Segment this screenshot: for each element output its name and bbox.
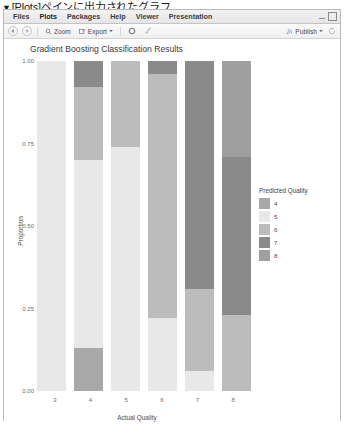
- publish-area: Publish: [284, 24, 336, 38]
- legend-label: 8: [274, 252, 277, 259]
- legend-item: 7: [259, 237, 337, 248]
- bar-column: [148, 61, 177, 391]
- bar-segment: [148, 74, 177, 318]
- bar-column: [185, 61, 214, 391]
- export-button[interactable]: Export: [77, 25, 115, 37]
- chart-legend: Predicted Quality 45678: [259, 187, 337, 263]
- x-axis-label: Actual Quality: [4, 414, 340, 421]
- pane-tabstrip: Files Plots Packages Help Viewer Present…: [4, 10, 340, 24]
- publish-label: Publish: [295, 28, 317, 35]
- bar-segment: [222, 315, 251, 391]
- bar-segment: [185, 371, 214, 391]
- tab-files[interactable]: Files: [8, 10, 34, 23]
- plot-panel: 0.000.250.500.751.00 345678: [37, 61, 251, 391]
- plots-toolbar: Zoom Export: [4, 24, 340, 39]
- legend-item: 4: [259, 198, 337, 209]
- legend-title: Predicted Quality: [259, 187, 337, 194]
- legend-swatch: [259, 198, 270, 209]
- legend-label: 5: [274, 213, 277, 220]
- remove-plot-icon: [128, 27, 136, 35]
- y-tick-label: 0.75: [22, 141, 34, 147]
- bar-segment: [185, 61, 214, 289]
- bar-column: [111, 61, 140, 391]
- tab-help[interactable]: Help: [105, 10, 131, 23]
- legend-item: 5: [259, 211, 337, 222]
- bar-column: [222, 61, 251, 391]
- legend-item: 8: [259, 250, 337, 261]
- export-label: Export: [88, 28, 107, 35]
- y-tick-label: 0.25: [22, 306, 34, 312]
- publish-button[interactable]: Publish: [284, 25, 325, 37]
- maximize-icon[interactable]: [328, 12, 337, 21]
- window-controls: [319, 12, 337, 21]
- zoom-button[interactable]: Zoom: [43, 25, 73, 37]
- bar-segment: [222, 157, 251, 315]
- bar-column: [37, 61, 66, 391]
- legend-swatch: [259, 237, 270, 248]
- refresh-icon[interactable]: [328, 27, 336, 35]
- bar-segment: [148, 61, 177, 74]
- remove-plot-button[interactable]: [126, 25, 138, 37]
- toolbar-divider: [37, 27, 38, 36]
- clear-plots-button[interactable]: [142, 25, 154, 37]
- chevron-down-icon[interactable]: [109, 30, 113, 32]
- stacked-bars: [37, 61, 251, 391]
- x-tick-label: 6: [160, 397, 163, 403]
- y-axis-label: Proportion: [17, 216, 24, 246]
- export-icon: [79, 28, 86, 35]
- tab-plots[interactable]: Plots: [34, 10, 62, 23]
- x-tick-label: 3: [53, 397, 56, 403]
- broom-icon: [144, 27, 152, 35]
- bar-segment: [111, 61, 140, 147]
- legend-label: 4: [274, 200, 277, 207]
- bar-segment: [74, 348, 103, 391]
- bar-segment: [37, 61, 66, 391]
- toolbar-divider-2: [120, 27, 121, 36]
- tab-presentation[interactable]: Presentation: [164, 10, 218, 23]
- legend-item: 6: [259, 224, 337, 235]
- tab-packages[interactable]: Packages: [62, 10, 105, 23]
- bar-segment: [148, 318, 177, 391]
- y-tick-label: 0.00: [22, 388, 34, 394]
- publish-icon: [286, 28, 293, 35]
- legend-swatch: [259, 224, 270, 235]
- bar-column: [74, 61, 103, 391]
- forward-arrow-icon[interactable]: [22, 26, 32, 36]
- y-tick-label: 0.50: [22, 223, 34, 229]
- bar-segment: [74, 61, 103, 87]
- bar-segment: [74, 160, 103, 348]
- bar-segment: [222, 61, 251, 157]
- chart-title: Gradient Boosting Classification Results: [30, 44, 183, 54]
- plot-canvas: Gradient Boosting Classification Results…: [4, 39, 340, 422]
- x-tick-label: 7: [196, 397, 199, 403]
- legend-label: 7: [274, 239, 277, 246]
- bar-segment: [185, 289, 214, 372]
- bar-segment: [74, 87, 103, 160]
- y-tick-label: 1.00: [22, 58, 34, 64]
- publish-chevron-down-icon[interactable]: [319, 30, 323, 32]
- x-tick-label: 4: [89, 397, 92, 403]
- legend-entries: 45678: [259, 198, 337, 261]
- bar-segment: [111, 147, 140, 391]
- zoom-label: Zoom: [54, 28, 71, 35]
- back-arrow-icon[interactable]: [8, 26, 18, 36]
- plots-pane-window: Files Plots Packages Help Viewer Present…: [3, 9, 341, 421]
- minimize-icon[interactable]: [319, 18, 325, 20]
- legend-label: 6: [274, 226, 277, 233]
- x-tick-label: 5: [124, 397, 127, 403]
- tab-viewer[interactable]: Viewer: [131, 10, 164, 23]
- x-tick-label: 8: [231, 397, 234, 403]
- magnifier-icon: [45, 28, 52, 35]
- legend-swatch: [259, 211, 270, 222]
- legend-swatch: [259, 250, 270, 261]
